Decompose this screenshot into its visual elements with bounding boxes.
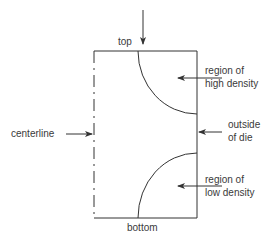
high-density-arc — [138, 51, 197, 114]
label-top: top — [118, 36, 132, 48]
label-outside-2: of die — [228, 132, 252, 144]
label-low-density-2: low density — [205, 187, 254, 199]
label-outside-1: outside — [228, 119, 260, 131]
label-bottom: bottom — [127, 222, 158, 234]
label-high-density-1: region of — [205, 65, 244, 77]
die-outline — [94, 51, 197, 218]
label-centerline: centerline — [11, 128, 54, 140]
label-high-density-2: high density — [205, 78, 258, 90]
label-low-density-1: region of — [205, 174, 244, 186]
